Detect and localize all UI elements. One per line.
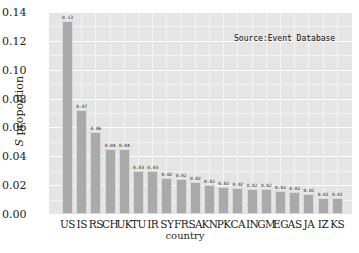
x-tick-label: SY [160, 218, 173, 230]
y-tick-label: 0.00 [2, 208, 27, 221]
x-tick-label: IZ [318, 218, 328, 230]
bar-gm [261, 189, 272, 214]
x-tick-label: CA [231, 218, 246, 230]
bar-eg [275, 191, 286, 214]
bar-value-label: 0.13 [62, 15, 73, 20]
bar-ch [105, 149, 116, 214]
y-tick-label: 0.04 [2, 150, 27, 163]
x-tick-label: KN [201, 218, 217, 230]
y-tick-label: 0.12 [2, 34, 27, 47]
bar-kn [204, 185, 215, 214]
x-tick-label: UK [116, 218, 132, 230]
bar-as [289, 192, 300, 214]
bar-value-label: 0.06 [90, 126, 101, 131]
x-tick-label: KS [330, 218, 344, 230]
bar-value-label: 0.07 [76, 104, 87, 109]
bar-value-label: 0.02 [275, 185, 286, 190]
bar-value-label: 0.02 [176, 173, 187, 178]
bar-value-label: 0.02 [247, 183, 258, 188]
x-tick-label: PK [217, 218, 231, 230]
bar-is [76, 110, 87, 214]
bar-pk [218, 187, 229, 214]
x-tick-label: FR [174, 218, 188, 230]
x-tick-label: RS [89, 218, 103, 230]
x-tick-label: EG [273, 218, 288, 230]
bar-value-label: 0.01 [303, 188, 314, 193]
bar-ca [232, 188, 243, 214]
bar-tu [133, 171, 144, 214]
bar-value-label: 0.02 [289, 186, 300, 191]
x-tick-label: US [60, 218, 75, 230]
bar-sy [161, 178, 172, 214]
y-tick-label: 0.10 [2, 63, 27, 76]
bar-in [247, 189, 258, 214]
bar-uk [119, 149, 130, 214]
gridline-horizontal [49, 214, 352, 215]
x-axis-label: country [166, 230, 205, 241]
bar-ja [303, 194, 314, 214]
bar-value-label: 0.01 [332, 192, 343, 197]
bar-us [62, 21, 73, 214]
bar-value-label: 0.04 [119, 143, 130, 148]
x-tick-label: JA [303, 218, 314, 230]
y-axis-label: S proportion [13, 77, 26, 147]
bar-value-label: 0.01 [318, 192, 329, 197]
x-tick-label: TU [131, 218, 146, 230]
bar-value-label: 0.04 [105, 143, 116, 148]
bar-value-label: 0.02 [204, 179, 215, 184]
x-tick-label: SA [188, 218, 202, 230]
bar-value-label: 0.02 [190, 176, 201, 181]
x-tick-label: AS [288, 218, 302, 230]
y-tick-label: 0.14 [2, 6, 27, 19]
bar-value-label: 0.02 [161, 172, 172, 177]
bar-value-label: 0.03 [147, 165, 158, 170]
bar-value-label: 0.03 [133, 165, 144, 170]
bar-sa [190, 182, 201, 214]
bar-value-label: 0.02 [261, 183, 272, 188]
x-tick-label: IR [147, 218, 158, 230]
x-tick-label: IS [77, 218, 87, 230]
bar-value-label: 0.02 [232, 182, 243, 187]
bar-fr [176, 179, 187, 214]
bar-iz [318, 198, 329, 214]
source-annotation: Source:Event Database [234, 34, 335, 43]
bar-ks [332, 198, 343, 214]
gridline-vertical [337, 12, 338, 214]
bar-value-label: 0.02 [218, 181, 229, 186]
y-tick-label: 0.02 [2, 179, 27, 192]
bar-rs [90, 132, 101, 214]
bar-ir [147, 171, 158, 214]
